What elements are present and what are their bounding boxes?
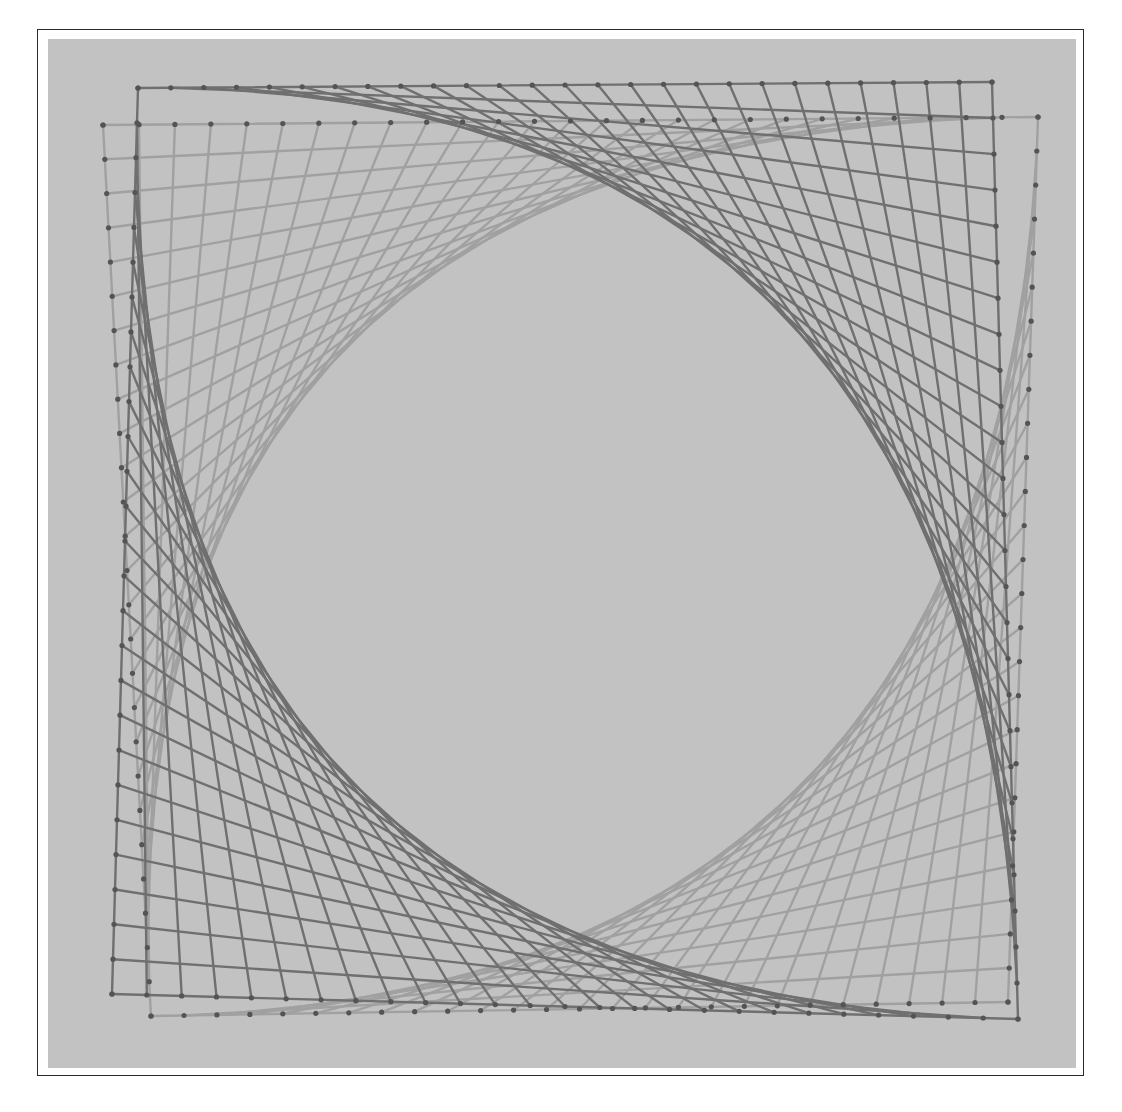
string-art-svg [48,39,1076,1068]
grain-overlay [48,39,1076,1068]
string-art-photo [48,39,1076,1068]
